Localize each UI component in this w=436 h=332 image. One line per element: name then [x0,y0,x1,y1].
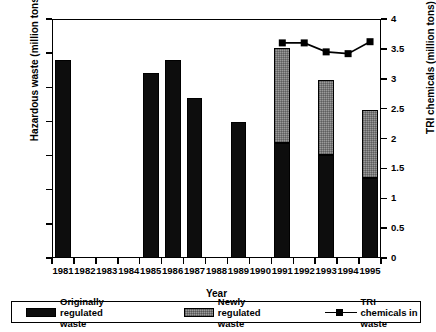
legend-label: Originally regulated waste [60,296,130,329]
y-axis-left-tick [46,87,52,89]
bar-originally-regulated-waste [55,60,71,258]
x-axis-tick [95,258,97,264]
y-axis-left-tick [46,121,52,123]
y-axis-left-tick [46,155,52,157]
y-axis-right-tick-label: 0 [391,253,431,263]
bar-originally-regulated-waste [274,143,290,258]
legend-label: Newly regulated waste [218,296,277,329]
y-axis-right-tick-label: 0.5 [391,223,431,233]
legend-item-tri-chemicals-in-waste: TRI chemicals in waste [325,296,420,329]
x-axis-tick [139,258,141,264]
y-axis-right-tick [381,168,387,170]
bar-originally-regulated-waste [318,155,334,258]
x-axis-tick [314,258,316,264]
y-axis-right-tick [381,18,387,20]
x-axis-tick [227,258,229,264]
bar-newly-regulated-waste [362,110,378,178]
y-axis-right-tick [381,108,387,110]
bar-newly-regulated-waste [274,48,290,144]
y-axis-right-tick [381,48,387,50]
y-axis-left-title: Hazardous waste (million tons) [29,0,40,158]
y-axis-left-tick [46,223,52,225]
y-axis-left-tick [46,18,52,20]
x-axis-tick [205,258,207,264]
chart-legend: Originally regulated waste Newly regulat… [11,301,421,323]
solid-black-swatch-icon [26,308,56,317]
y-axis-right-tick-label: 1.5 [391,163,431,173]
y-axis-right-tick [381,78,387,80]
x-axis-tick [161,258,163,264]
y-axis-right-tick [381,257,387,259]
x-axis-tick [117,258,119,264]
bar-originally-regulated-waste [143,73,159,258]
y-axis-right-tick-label: 2.5 [391,104,431,114]
y-axis-right-tick [381,227,387,229]
x-axis-tick [73,258,75,264]
legend-label: TRI chemicals in waste [361,296,420,329]
x-axis-tick [358,258,360,264]
y-axis-right-tick [381,198,387,200]
x-axis-tick [336,258,338,264]
bar-originally-regulated-waste [362,178,378,258]
x-axis-tick [183,258,185,264]
x-axis-tick [249,258,251,264]
gray-hatch-swatch-icon [184,308,214,317]
y-axis-right-tick [381,138,387,140]
y-axis-right-tick-label: 3 [391,74,431,84]
line-marker-swatch-icon [325,308,357,317]
y-axis-right-tick-label: 4 [391,14,431,24]
y-axis-left-tick [46,52,52,54]
x-axis-tick [51,258,53,264]
legend-item-originally-regulated-waste: Originally regulated waste [26,296,130,329]
y-axis-right-tick-label: 3.5 [391,44,431,54]
x-axis-tick [271,258,273,264]
bar-originally-regulated-waste [231,122,247,258]
bar-newly-regulated-waste [318,80,334,155]
x-axis-tick [293,258,295,264]
bar-originally-regulated-waste [165,60,181,258]
legend-item-newly-regulated-waste: Newly regulated waste [184,296,277,329]
y-axis-left-tick [46,189,52,191]
y-axis-right-tick-label: 1 [391,193,431,203]
x-axis-tick-label: 1995 [350,266,390,276]
x-axis-tick [380,258,382,264]
y-axis-right-tick-label: 2 [391,134,431,144]
bar-originally-regulated-waste [187,98,203,258]
